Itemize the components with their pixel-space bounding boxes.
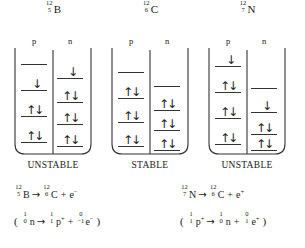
isotope-notation-electron: 0 −1 <box>76 213 85 225</box>
proton-column-header: p <box>215 36 241 46</box>
stability-label-nitrogen-12: UNSTABLE <box>199 160 295 170</box>
emitted-charge: − <box>74 188 78 195</box>
isotope-notation-reactant: 12 7 <box>180 186 189 198</box>
proton-spin-down-3: ↓ <box>228 134 238 143</box>
isotope-notation-product: 12 6 <box>42 186 51 198</box>
electron-charge: − <box>90 215 94 222</box>
proton-column-header: p <box>118 36 144 46</box>
panel-boron-12: 12 5 B p n ↓ ↑ ↓ <box>5 0 101 182</box>
reaction-arrow-icon: → <box>196 189 208 200</box>
proton-spin-down-2: ↓ <box>131 112 141 121</box>
equation-boron-decay: 12 5 B→ 12 6 C+e− <box>14 186 78 200</box>
neutron-spin-down-2: ↓ <box>70 114 80 123</box>
element-symbol: C <box>151 3 158 15</box>
isotope-notation-positron: 0 1 <box>242 213 251 225</box>
nuclide-label-boron-12: 12 5 B <box>5 2 101 15</box>
neutron-spin-down-2: ↓ <box>167 120 177 129</box>
energy-levels-boron-12: ↓ ↑ ↓ ↑ ↓ ↓ ↑ ↓ ↑ ↓ ↑ ↓ <box>11 46 95 156</box>
close-paren: ) <box>97 215 101 227</box>
plus-sign: + <box>61 189 67 200</box>
neutron-spin-down-1: ↓ <box>262 102 272 111</box>
atomic-number: 7 <box>180 191 189 198</box>
open-paren: ( <box>180 215 184 227</box>
atomic-number: 1 <box>187 218 196 225</box>
reactant-symbol: B <box>23 189 30 200</box>
energy-levels-carbon-12: ↑ ↓ ↑ ↓ ↑ ↓ ↑ ↓ ↑ ↓ ↑ ↓ <box>108 46 192 156</box>
neutron-spin-down-2: ↓ <box>264 124 274 133</box>
reaction-arrow-icon: → <box>35 216 47 227</box>
proton-column-header: p <box>21 36 47 46</box>
neutron-spin-down-3: ↓ <box>167 140 177 149</box>
proton-spin-down-1: ↓ <box>131 88 141 97</box>
nuclide-label-carbon-12: 12 6 C <box>102 2 198 15</box>
proton-spin-down-3: ↓ <box>34 132 44 141</box>
panel-nitrogen-12: 12 7 N p n ↓ ↑ ↓ ↑ <box>199 0 295 182</box>
atomic-number: 1 <box>242 218 251 225</box>
proton-spin-down-0: ↓ <box>226 56 236 65</box>
neutron-level-0 <box>251 88 277 89</box>
neutron-column-header: n <box>57 36 83 46</box>
isotope-notation: 12 7 <box>239 2 248 13</box>
neutron-symbol: n <box>30 216 35 227</box>
reaction-arrow-icon: → <box>30 189 42 200</box>
proton-charge: + <box>61 215 65 222</box>
product-symbol: C <box>51 189 58 200</box>
atomic-number: 6 <box>42 191 51 198</box>
proton-level-0 <box>21 64 47 65</box>
atomic-number: 5 <box>14 191 23 198</box>
isotope-notation: 12 5 <box>45 2 54 13</box>
neutron-spin-down-0: ↓ <box>68 68 78 77</box>
element-symbol: N <box>248 3 256 15</box>
atomic-number: 0 <box>217 218 226 225</box>
element-symbol: B <box>54 3 61 15</box>
neutron-symbol: n <box>226 216 231 227</box>
stability-label-carbon-12: STABLE <box>102 160 198 170</box>
atomic-number: 6 <box>209 191 218 198</box>
proton-spin-down-2: ↓ <box>34 106 44 115</box>
proton-spin-down-1: ↓ <box>228 82 238 91</box>
panel-carbon-12: 12 6 C p n ↑ ↓ ↑ ↓ <box>102 0 198 182</box>
neutron-column-header: n <box>251 36 277 46</box>
equation-nitrogen-decay: 12 7 N→ 12 6 C+e+ <box>180 186 244 200</box>
emitted-charge: + <box>240 188 244 195</box>
neutron-spin-down-1: ↓ <box>167 100 177 109</box>
proton-spin-down-1: ↓ <box>32 80 42 89</box>
plus-sign: + <box>234 216 240 227</box>
decay-equations-row: 12 5 B→ 12 6 C+e− 12 7 N→ 12 6 C+e+ <box>0 186 305 206</box>
nucleon-equations-row: ( 1 0 n→ 1 1 p++ 0 −1 e−) ( 1 1 p+→ 1 0 … <box>0 213 305 233</box>
atomic-number: 1 <box>47 218 56 225</box>
isotope-notation-neutron: 1 0 <box>217 213 226 225</box>
neutron-spin-down-1: ↓ <box>70 92 80 101</box>
neutron-level-0 <box>154 86 180 87</box>
atomic-number: 7 <box>239 7 248 14</box>
atomic-number: 0 <box>21 218 30 225</box>
isotope-notation-reactant: 12 5 <box>14 186 23 198</box>
equation-neutron-to-proton: ( 1 0 n→ 1 1 p++ 0 −1 e−) <box>14 213 100 227</box>
panel-group: 12 5 B p n ↓ ↑ ↓ <box>0 0 305 182</box>
equation-proton-to-neutron: ( 1 1 p+→ 1 0 n+ 0 1 e+) <box>180 213 266 227</box>
close-paren: ) <box>263 215 267 227</box>
reaction-arrow-icon: → <box>204 216 216 227</box>
energy-levels-nitrogen-12: ↓ ↑ ↓ ↑ ↓ ↑ ↓ ↓ ↑ ↓ ↑ ↓ <box>205 46 289 156</box>
isotope-notation-neutron: 1 0 <box>21 213 30 225</box>
isotope-notation-product: 12 6 <box>209 186 218 198</box>
atomic-number: 5 <box>45 7 54 14</box>
neutron-column-header: n <box>154 36 180 46</box>
plus-sign: + <box>68 216 74 227</box>
isotope-notation-proton: 1 1 <box>47 213 56 225</box>
product-symbol: C <box>218 189 225 200</box>
atomic-number: 6 <box>142 7 151 14</box>
isotope-notation: 12 6 <box>142 2 151 13</box>
proton-spin-down-3: ↓ <box>131 136 141 145</box>
proton-level-0 <box>118 72 144 73</box>
plus-sign: + <box>227 189 233 200</box>
isotope-notation-proton: 1 1 <box>187 213 196 225</box>
proton-spin-down-2: ↓ <box>228 108 238 117</box>
figure-root: 12 5 B p n ↓ ↑ ↓ <box>0 0 305 248</box>
stability-label-boron-12: UNSTABLE <box>5 160 101 170</box>
nuclide-label-nitrogen-12: 12 7 N <box>199 2 295 15</box>
atomic-number: −1 <box>76 218 85 225</box>
positron-charge: + <box>256 215 260 222</box>
neutron-spin-down-3: ↓ <box>264 140 274 149</box>
open-paren: ( <box>14 215 18 227</box>
